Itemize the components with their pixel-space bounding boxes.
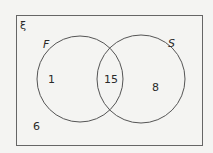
f-only-count: 1 <box>48 73 55 86</box>
set-s-label: S <box>168 37 175 50</box>
outside-count: 6 <box>33 120 40 133</box>
intersection-count: 15 <box>104 73 118 86</box>
venn-diagram: ξ F S 1 15 8 6 <box>0 0 213 153</box>
set-f-label: F <box>43 38 50 51</box>
s-only-count: 8 <box>152 81 159 94</box>
universal-symbol: ξ <box>20 19 26 32</box>
